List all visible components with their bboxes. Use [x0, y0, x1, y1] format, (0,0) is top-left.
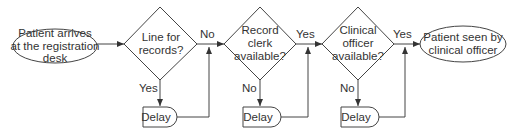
decision1-label-line1: Line for: [142, 31, 181, 43]
decision1-label-line2: records?: [139, 44, 184, 56]
edge-label-d3-yes: Yes: [393, 28, 412, 40]
delay2-node: Delay: [243, 107, 281, 127]
decision2-label-line3: available?: [234, 50, 286, 62]
delay1-label: Delay: [141, 111, 171, 123]
decision2-node: Record clerk available?: [224, 7, 296, 80]
edge-label-d1-yes: Yes: [139, 82, 158, 94]
decision3-label-line1: Clinical: [339, 24, 376, 36]
start-label-line2: at the registration: [11, 40, 100, 52]
flowchart-canvas: Patient arrives at the registration desk…: [0, 0, 518, 134]
end-label-line1: Patient seen by: [423, 31, 503, 43]
delay2-label: Delay: [243, 111, 273, 123]
edge-label-d2-yes: Yes: [296, 28, 315, 40]
delay3-node: Delay: [341, 107, 379, 127]
start-label-line3: desk: [43, 52, 68, 64]
end-label-line2: clinical officer: [429, 44, 498, 56]
edge-label-d1-no: No: [200, 28, 215, 40]
end-node: Patient seen by clinical officer: [420, 26, 506, 62]
delay1-node: Delay: [141, 107, 177, 127]
start-node: Patient arrives at the registration desk: [11, 27, 100, 64]
start-label-line1: Patient arrives: [18, 27, 92, 39]
decision3-label-line2: officer: [342, 37, 373, 49]
decision3-label-line3: available?: [332, 50, 384, 62]
delay3-label: Delay: [341, 111, 371, 123]
decision1-node: Line for records?: [124, 7, 197, 80]
edge-label-d2-no: No: [242, 82, 257, 94]
decision2-label-line1: Record: [241, 24, 278, 36]
decision2-label-line2: clerk: [248, 37, 273, 49]
edge-label-d3-no: No: [340, 82, 355, 94]
decision3-node: Clinical officer available?: [322, 7, 394, 80]
